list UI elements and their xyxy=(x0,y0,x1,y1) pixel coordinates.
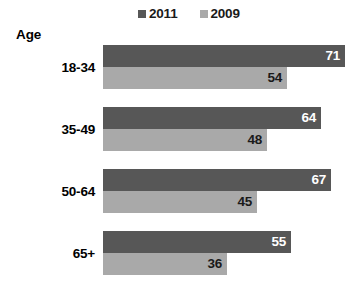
plot-area: 18-34 71 54 35-49 64 48 50 xyxy=(0,45,359,295)
legend-entry-2011: 2011 xyxy=(138,7,178,21)
bar-group: 18-34 71 54 xyxy=(0,45,359,90)
bar-2009: 45 xyxy=(103,191,257,213)
axis-title-age: Age xyxy=(16,27,41,42)
category-label: 50-64 xyxy=(0,169,95,214)
bar-2009: 48 xyxy=(103,129,267,151)
legend-entry-2009: 2009 xyxy=(200,7,240,21)
bar-pair: 55 36 xyxy=(103,231,359,276)
legend-swatch-2011 xyxy=(138,10,146,18)
bar-value-2009: 54 xyxy=(267,71,282,85)
bar-group: 50-64 67 45 xyxy=(0,169,359,214)
bar-2011: 67 xyxy=(103,169,331,191)
chart-legend: 2011 2009 xyxy=(138,6,240,22)
category-label: 18-34 xyxy=(0,45,95,90)
bar-value-2011: 71 xyxy=(325,49,340,63)
category-label: 65+ xyxy=(0,231,95,276)
bar-pair: 71 54 xyxy=(103,45,359,90)
category-label: 35-49 xyxy=(0,107,95,152)
bar-2011: 71 xyxy=(103,45,345,67)
bar-group: 35-49 64 48 xyxy=(0,107,359,152)
bar-pair: 67 45 xyxy=(103,169,359,214)
bar-value-2011: 67 xyxy=(311,173,326,187)
bar-2009: 54 xyxy=(103,67,287,89)
bar-value-2011: 55 xyxy=(271,235,286,249)
legend-label-2011: 2011 xyxy=(149,7,178,21)
bar-value-2009: 48 xyxy=(247,133,262,147)
bar-2011: 55 xyxy=(103,231,291,253)
legend-label-2009: 2009 xyxy=(211,7,240,21)
bar-value-2009: 45 xyxy=(237,195,252,209)
bar-value-2011: 64 xyxy=(301,111,316,125)
bar-pair: 64 48 xyxy=(103,107,359,152)
bar-value-2009: 36 xyxy=(207,257,222,271)
bar-group: 65+ 55 36 xyxy=(0,231,359,276)
bar-chart: 2011 2009 Age 18-34 71 54 35-49 64 xyxy=(0,0,359,300)
legend-swatch-2009 xyxy=(200,10,208,18)
bar-2009: 36 xyxy=(103,253,227,275)
bar-2011: 64 xyxy=(103,107,321,129)
